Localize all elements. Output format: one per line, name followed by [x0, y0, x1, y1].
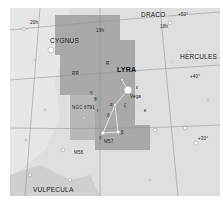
label-eta: η: [90, 90, 93, 95]
label-r: R: [106, 61, 109, 66]
label-zeta: ζ: [124, 103, 126, 108]
label-iota: ι: [97, 108, 98, 113]
label-draco: DRACO: [141, 11, 165, 18]
ra-20h: 20h: [30, 20, 38, 25]
label-epsilon: ε: [136, 85, 138, 90]
label-delta: δ: [107, 113, 110, 118]
label-lyra: LYRA: [117, 66, 136, 73]
lyra-subregion: [70, 95, 95, 140]
label-vulpecula: VULPECULA: [33, 186, 73, 193]
label-theta: θ: [94, 97, 97, 102]
label-cygnus: CYGNUS: [50, 37, 79, 44]
label-ngc6791: NGC 6791: [72, 105, 95, 110]
label-kappa: κ: [144, 108, 146, 113]
ra-18h: 18h: [160, 24, 168, 29]
ra-19h: 19h: [96, 28, 104, 33]
label-rr: RR: [72, 71, 79, 76]
label-alpha: α: [110, 102, 113, 107]
label-m56: M56: [74, 150, 83, 155]
label-hercules: HERCULES: [180, 53, 217, 60]
dec-40: +40°: [190, 74, 200, 79]
star-chart: DRACO CYGNUS HERCULES VULPECULA LYRA 20h…: [0, 0, 223, 205]
dec-30: +30°: [198, 136, 208, 141]
label-beta: β: [121, 130, 124, 135]
label-vega: Vega: [130, 94, 141, 99]
label-m57: M57: [104, 139, 113, 144]
dec-50: +50°: [178, 12, 188, 17]
label-gamma: γ: [99, 135, 101, 140]
